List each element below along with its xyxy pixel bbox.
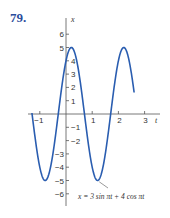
y-tick-label: −2 bbox=[71, 137, 81, 146]
y-tick-label: 5 bbox=[60, 44, 65, 53]
y-tick-label: −1 bbox=[71, 123, 81, 132]
y-tick-label: −6 bbox=[55, 190, 65, 199]
chart: −1123−6−5−4−3−2−1123456xtx = 3 sin πt + … bbox=[0, 0, 170, 218]
y-axis-label: x bbox=[70, 15, 75, 24]
x-tick-label: −1 bbox=[34, 116, 44, 125]
y-tick-label: 4 bbox=[71, 57, 76, 66]
y-tick-label: −5 bbox=[55, 177, 65, 186]
y-tick-label: −4 bbox=[55, 163, 65, 172]
y-tick-label: 2 bbox=[71, 83, 76, 92]
x-tick-label: 1 bbox=[91, 116, 96, 125]
x-tick-label: 3 bbox=[143, 116, 148, 125]
x-axis-label: t bbox=[155, 116, 158, 125]
y-tick-label: 1 bbox=[71, 97, 76, 106]
equation-label: x = 3 sin πt + 4 cos πt bbox=[77, 192, 145, 201]
y-tick-label: 6 bbox=[60, 30, 65, 39]
axis-labels: −1123−6−5−4−3−2−1123456xtx = 3 sin πt + … bbox=[34, 15, 158, 201]
x-tick-label: 2 bbox=[117, 116, 122, 125]
y-tick-label: −3 bbox=[55, 150, 65, 159]
y-tick-label: 3 bbox=[71, 70, 76, 79]
annotation-leader bbox=[99, 182, 108, 188]
